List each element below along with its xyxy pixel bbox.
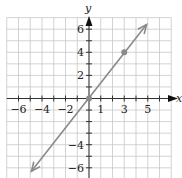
y-axis-label: y — [84, 2, 92, 15]
x-tick-label: 5 — [144, 103, 151, 116]
y-tick-label: 6 — [77, 23, 84, 36]
y-tick-label: 4 — [77, 46, 84, 59]
y-tick-label: −6 — [68, 162, 84, 175]
y-tick-label: −4 — [68, 139, 84, 152]
x-tick-label: −6 — [10, 103, 26, 116]
y-tick-label: 2 — [77, 69, 84, 82]
x-tick-label: 1 — [97, 103, 104, 116]
coordinate-plane: −6−4−2135642−4−6 x y — [0, 0, 182, 178]
x-tick-label: 3 — [121, 103, 128, 116]
data-point — [86, 96, 92, 102]
x-tick-label: −2 — [57, 103, 73, 116]
x-tick-label: −4 — [34, 103, 50, 116]
x-axis-label: x — [176, 92, 182, 105]
axes — [7, 16, 178, 178]
data-point — [121, 49, 127, 55]
